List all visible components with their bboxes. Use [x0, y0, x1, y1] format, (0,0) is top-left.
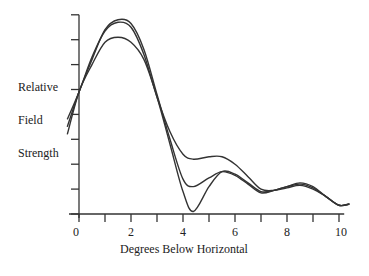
x-tick-label-6: 6 — [232, 225, 238, 240]
x-tick-label-0: 0 — [73, 225, 79, 240]
y-axis-label-field: Field — [18, 113, 43, 128]
data-series-curve-1 — [67, 19, 349, 205]
x-tick-label-10: 10 — [335, 225, 347, 240]
x-axis-label: Degrees Below Horizontal — [120, 242, 248, 257]
x-tick-label-2: 2 — [128, 225, 134, 240]
y-axis-label-strength: Strength — [18, 146, 59, 161]
x-tick-label-4: 4 — [180, 225, 186, 240]
y-axis-label-relative: Relative — [18, 80, 58, 95]
curves — [67, 19, 349, 211]
x-tick-label-8: 8 — [284, 225, 290, 240]
